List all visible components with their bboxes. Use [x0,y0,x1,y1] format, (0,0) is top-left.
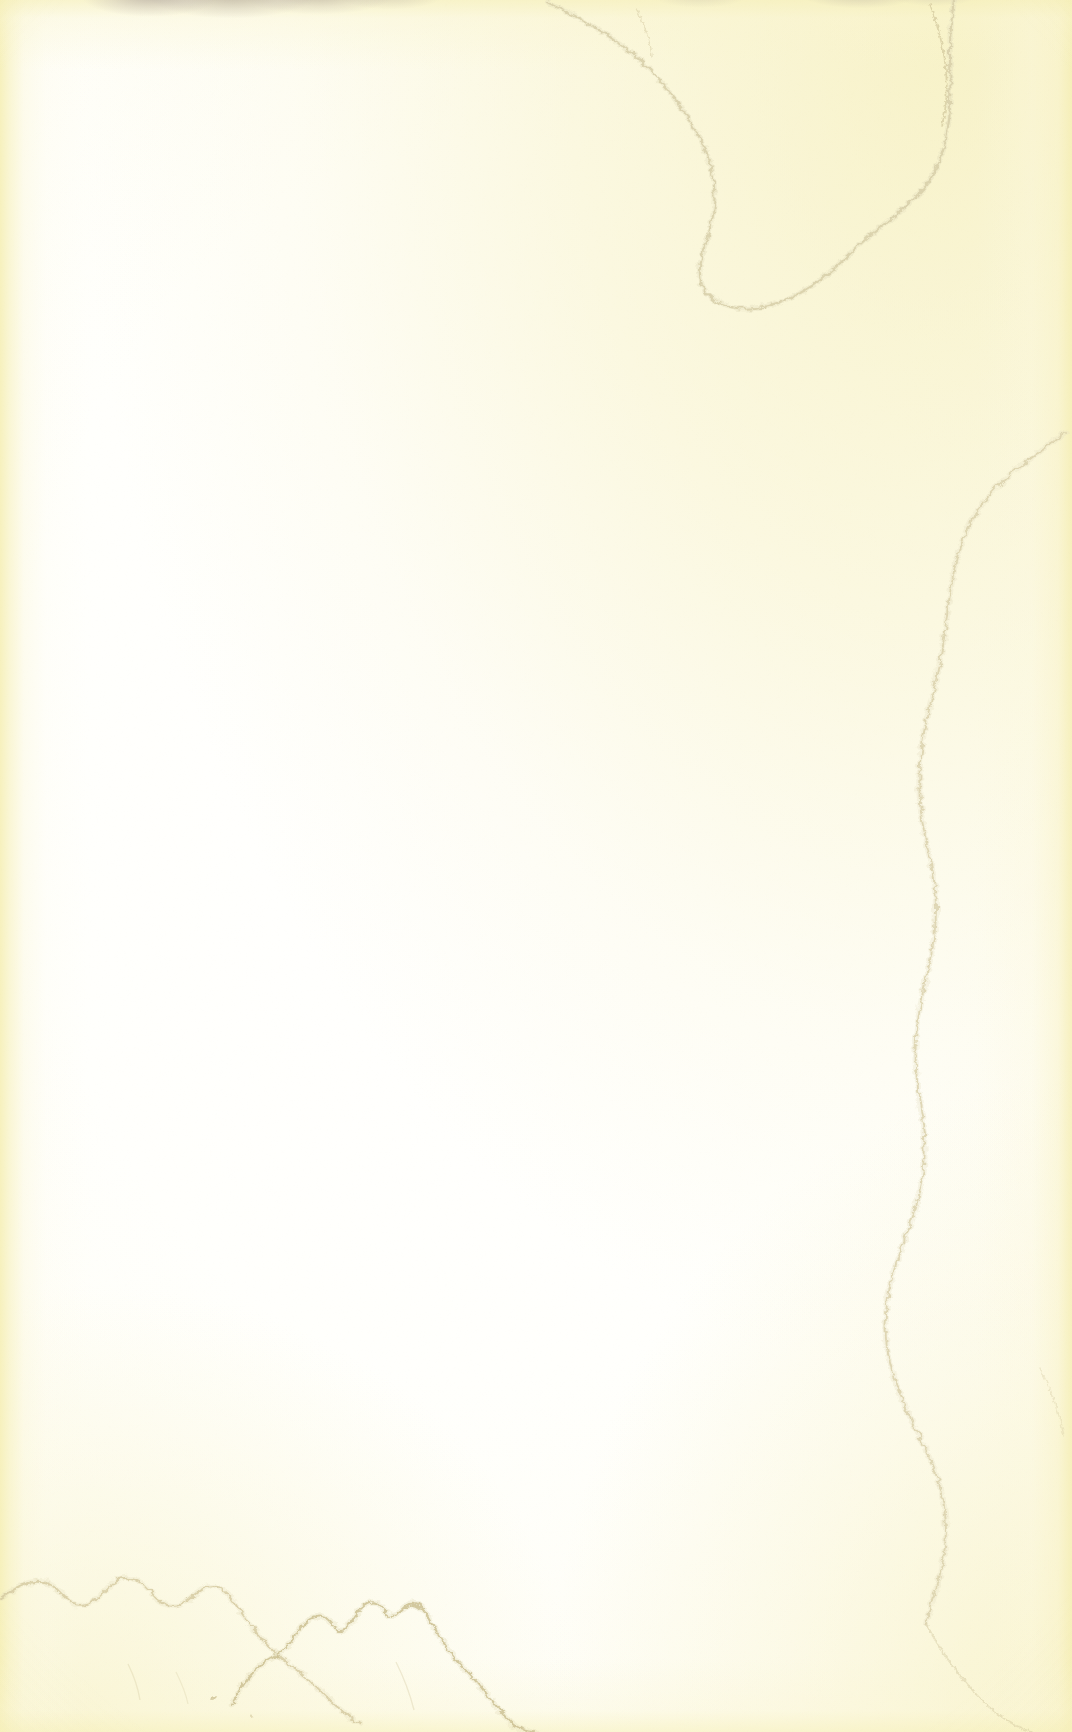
right-edge-wash [0,0,1072,1732]
bottom-edge-marks [128,1662,414,1710]
right-edge-tideline [885,432,1066,1624]
top-edge-smudges [0,0,1072,1732]
bottom-edge-wash [0,0,1072,1732]
top-right-tideline [548,0,954,309]
bottom-right-tideline [926,1368,1064,1732]
water-tidelines [0,0,1072,1732]
top-right-stain-field [0,0,1072,1732]
left-edge-wash [0,0,1072,1732]
bottom-left-stain-field [0,0,1072,1732]
bottom-left-tidelines [0,1578,534,1732]
paper-base [0,0,1072,1732]
bottom-right-stain-field [0,0,1072,1732]
paper-grain [0,0,1072,1732]
scan-vignette [0,0,1072,1732]
top-right-secondary-tideline [636,4,947,126]
top-edge-wash [0,0,1072,1732]
scanned-page [0,0,1072,1732]
